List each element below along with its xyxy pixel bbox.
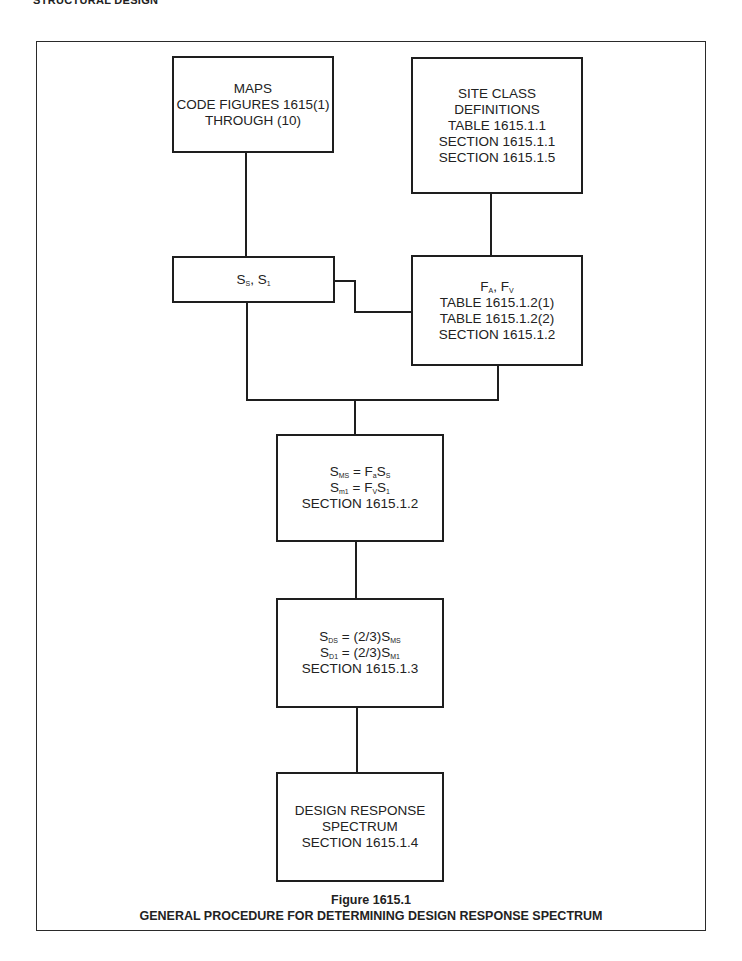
ss-s1-label: SS, S1 bbox=[236, 272, 270, 288]
connector-merge bbox=[246, 399, 499, 401]
design-spectrum-box: DESIGN RESPONSE SPECTRUM SECTION 1615.1.… bbox=[276, 772, 444, 882]
sds-section: SECTION 1615.1.3 bbox=[302, 661, 418, 677]
sm1-equation: Sm1 = FVS1 bbox=[330, 480, 390, 496]
connector-site-to-fa bbox=[490, 193, 492, 255]
sd1-equation: SD1 = (2/3)SM1 bbox=[320, 645, 400, 661]
connector-sms-to-sds bbox=[355, 541, 357, 598]
site-class-line-2: DEFINITIONS bbox=[454, 102, 540, 118]
connector-ss-to-fa-1 bbox=[334, 280, 356, 282]
fa-fv-line-1: TABLE 1615.1.2(1) bbox=[440, 295, 555, 311]
connector-ss-to-fa-3 bbox=[354, 311, 411, 313]
maps-box: MAPS CODE FIGURES 1615(1) THROUGH (10) bbox=[172, 56, 334, 153]
section-header: STRUCTURAL DESIGN bbox=[33, 0, 158, 6]
design-line-3: SECTION 1615.1.4 bbox=[302, 835, 418, 851]
connector-ss-down bbox=[246, 302, 248, 401]
site-class-line-5: SECTION 1615.1.5 bbox=[439, 150, 555, 166]
connector-sds-to-design bbox=[356, 707, 358, 772]
ss-s1-box: SS, S1 bbox=[172, 256, 335, 303]
design-line-2: SPECTRUM bbox=[322, 819, 398, 835]
site-class-line-4: SECTION 1615.1.1 bbox=[439, 134, 555, 150]
fa-fv-box: FA, FV TABLE 1615.1.2(1) TABLE 1615.1.2(… bbox=[411, 255, 583, 366]
maps-line-1: MAPS bbox=[234, 81, 272, 97]
site-class-line-3: TABLE 1615.1.1 bbox=[448, 118, 546, 134]
design-line-1: DESIGN RESPONSE bbox=[295, 803, 426, 819]
sms-equation: SMS = FaSS bbox=[330, 464, 391, 480]
sms-sm1-box: SMS = FaSS Sm1 = FVS1 SECTION 1615.1.2 bbox=[276, 434, 444, 542]
site-class-box: SITE CLASS DEFINITIONS TABLE 1615.1.1 SE… bbox=[411, 57, 583, 194]
connector-merge-to-sms bbox=[354, 399, 356, 434]
connector-fa-down bbox=[497, 365, 499, 401]
fa-fv-label: FA, FV bbox=[480, 279, 513, 295]
fa-fv-line-3: SECTION 1615.1.2 bbox=[439, 327, 555, 343]
connector-maps-to-ss bbox=[245, 152, 247, 256]
maps-line-3: THROUGH (10) bbox=[205, 113, 301, 129]
figure-title: GENERAL PROCEDURE FOR DETERMINING DESIGN… bbox=[36, 909, 706, 923]
site-class-line-1: SITE CLASS bbox=[458, 86, 536, 102]
sds-equation: SDS = (2/3)SMS bbox=[319, 629, 400, 645]
fa-fv-line-2: TABLE 1615.1.2(2) bbox=[440, 311, 555, 327]
sds-sd1-box: SDS = (2/3)SMS SD1 = (2/3)SM1 SECTION 16… bbox=[276, 598, 444, 708]
maps-line-2: CODE FIGURES 1615(1) bbox=[176, 97, 329, 113]
connector-ss-to-fa-2 bbox=[354, 280, 356, 313]
sms-section: SECTION 1615.1.2 bbox=[302, 496, 418, 512]
figure-number: Figure 1615.1 bbox=[36, 893, 706, 907]
